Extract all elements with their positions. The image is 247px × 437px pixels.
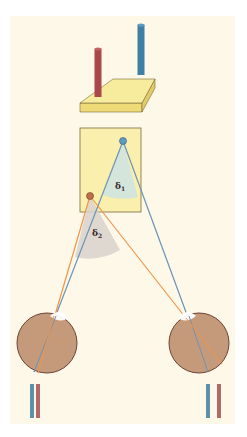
right-bar-blue — [206, 384, 210, 418]
blue-rod — [138, 25, 145, 75]
far-point-blue — [120, 138, 127, 145]
right-eye — [169, 312, 229, 373]
platform-front-face — [80, 103, 142, 112]
left-bar-red — [36, 384, 40, 418]
right-bar-red — [217, 384, 221, 418]
red-rod — [95, 49, 102, 97]
left-bar-blue — [30, 384, 34, 418]
near-point-red — [87, 193, 94, 200]
stereopsis-diagram: δ1 δ2 — [0, 0, 247, 437]
right-eyeball — [169, 313, 229, 373]
left-eyeball — [17, 313, 77, 373]
red-rod-top — [95, 48, 102, 51]
blue-rod-top — [138, 24, 145, 27]
left-eye — [17, 312, 77, 373]
